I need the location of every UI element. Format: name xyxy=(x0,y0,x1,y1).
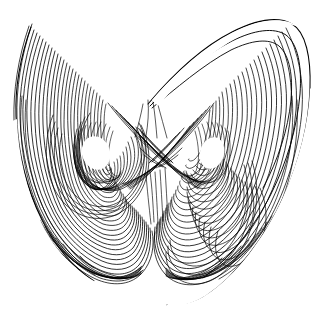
attractor-plot xyxy=(0,0,328,327)
plot-background xyxy=(0,0,328,327)
lorenz-attractor-figure xyxy=(0,0,328,327)
